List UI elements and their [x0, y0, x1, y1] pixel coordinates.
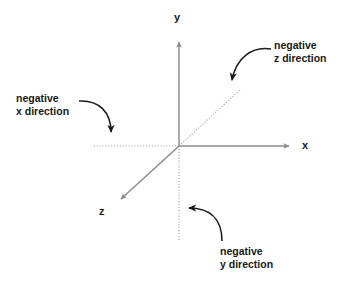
callout-negative-z-line2: z direction — [274, 52, 327, 65]
neg-z-callout-arrow — [232, 49, 271, 80]
callout-negative-z-line1: negative — [274, 39, 327, 52]
axis-label-x: x — [302, 139, 308, 153]
callout-negative-y-line2: y direction — [220, 258, 273, 271]
coordinate-axes-diagram: y x z negative z direction negative x di… — [0, 0, 351, 300]
callout-negative-y-line1: negative — [220, 245, 273, 258]
axis-label-y: y — [174, 11, 180, 25]
callout-negative-x-direction: negative x direction — [16, 92, 69, 118]
negative-z-axis-line — [179, 89, 241, 146]
neg-y-callout-arrow — [189, 208, 222, 241]
neg-x-callout-arrow — [79, 101, 111, 132]
callout-negative-x-line2: x direction — [16, 105, 69, 118]
callout-negative-y-direction: negative y direction — [220, 245, 273, 271]
callout-negative-z-direction: negative z direction — [274, 39, 327, 65]
callout-negative-x-line1: negative — [16, 92, 69, 105]
axis-label-z: z — [99, 205, 105, 219]
positive-z-axis-line — [121, 146, 179, 199]
